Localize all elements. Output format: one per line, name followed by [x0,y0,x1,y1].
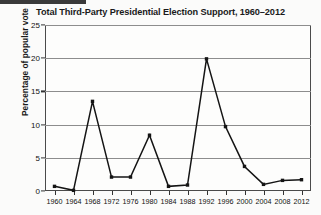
x-tick-label: 1968 [85,197,101,206]
data-point-marker [129,175,132,178]
x-tick-mark [169,191,170,195]
scan-artifact [0,0,86,4]
x-tick-label: 1964 [66,197,82,206]
x-tick-label: 2000 [237,197,253,206]
x-tick-label: 2004 [256,197,272,206]
y-tick-label: 25 [31,21,40,30]
x-tick-label: 1972 [104,197,120,206]
x-tick-mark [150,191,151,195]
x-tick-label: 1980 [142,197,158,206]
x-tick-mark [226,191,227,195]
x-tick-label: 1992 [199,197,215,206]
data-series-line [45,25,311,191]
x-tick-mark [93,191,94,195]
y-tick-label: 15 [31,87,40,96]
data-point-marker [243,165,246,168]
x-tick-label: 1988 [180,197,196,206]
data-point-marker [224,125,227,128]
plot-area: 0510152025 19601964196819721976198019841… [45,25,311,191]
x-tick-mark [264,191,265,195]
x-tick-mark [131,191,132,195]
y-axis-label: Percentage of popular vote [20,0,30,137]
x-tick-mark [245,191,246,195]
x-tick-mark [283,191,284,195]
x-tick-mark [188,191,189,195]
x-tick-mark [302,191,303,195]
x-tick-label: 2012 [294,197,310,206]
x-tick-mark [207,191,208,195]
series-polyline [55,59,302,190]
x-tick-label: 1984 [161,197,177,206]
x-tick-label: 1976 [123,197,139,206]
data-point-marker [148,134,151,137]
data-point-marker [300,178,303,181]
chart-figure: Total Third-Party Presidential Election … [0,0,321,215]
y-tick-label: 5 [36,153,40,162]
x-tick-mark [112,191,113,195]
data-point-marker [91,100,94,103]
y-tick-label: 0 [36,187,40,196]
data-point-marker [167,185,170,188]
data-point-marker [72,189,75,192]
y-tick-label: 10 [31,120,40,129]
x-tick-label: 2008 [275,197,291,206]
x-tick-label: 1996 [218,197,234,206]
x-tick-label: 1960 [47,197,63,206]
data-point-marker [281,179,284,182]
data-point-marker [53,185,56,188]
data-point-marker [110,175,113,178]
data-point-marker [205,57,208,60]
data-point-marker [186,183,189,186]
x-tick-mark [55,191,56,195]
y-tick-label: 20 [31,54,40,63]
data-point-marker [262,183,265,186]
chart-title: Total Third-Party Presidential Election … [0,7,321,17]
